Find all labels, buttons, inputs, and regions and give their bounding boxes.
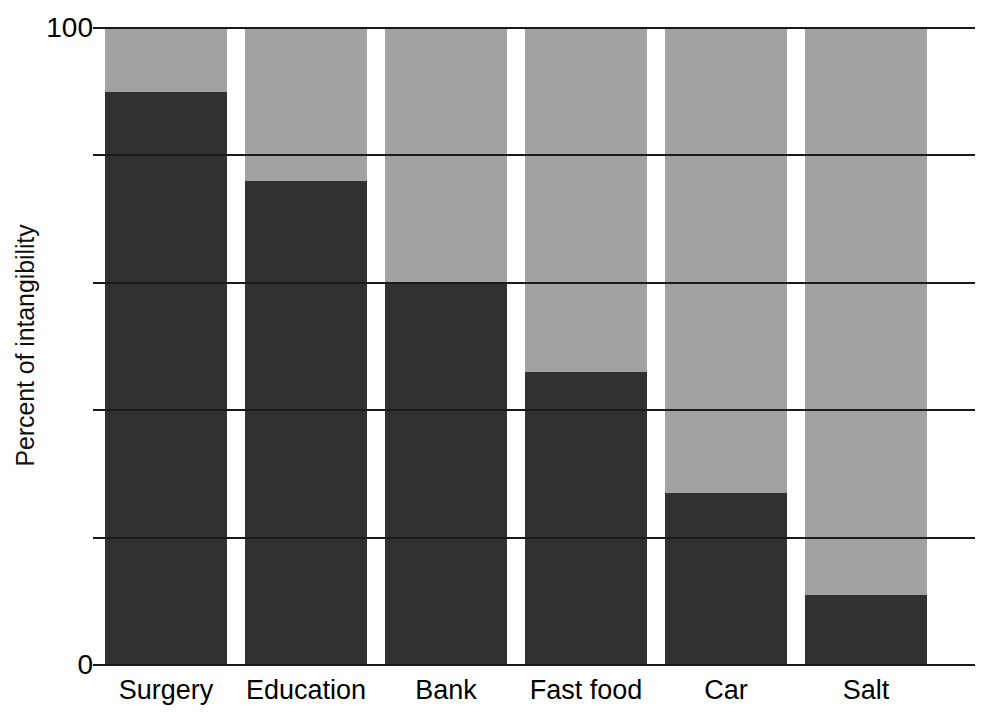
bar-surgery [105, 92, 227, 665]
y-tick-label-0: 0 [33, 651, 93, 679]
x-tick-label-salt: Salt [790, 676, 942, 704]
x-axis-tick-labels: SurgeryEducationBankFast foodCarSalt [105, 676, 945, 720]
y-tick-label-100: 100 [33, 14, 93, 42]
bar-column-car [665, 28, 787, 665]
x-tick-label-fast-food: Fast food [510, 676, 662, 704]
bar-column-surgery [105, 28, 227, 665]
bar-education [245, 181, 367, 665]
y-axis-tick-labels: 0100 [25, 0, 93, 726]
x-tick-label-car: Car [650, 676, 802, 704]
x-tick-label-surgery: Surgery [90, 676, 242, 704]
bar-column-education [245, 28, 367, 665]
bar-fast-food [525, 372, 647, 665]
bar-salt [805, 595, 927, 665]
plot-area [105, 28, 945, 665]
bar-column-salt [805, 28, 927, 665]
chart-figure: 0100 Percent of intangibility SurgeryEdu… [0, 0, 991, 726]
bar-car [665, 493, 787, 665]
bar-column-bank [385, 28, 507, 665]
bar-bank [385, 283, 507, 665]
x-tick-label-bank: Bank [370, 676, 522, 704]
bar-column-fast-food [525, 28, 647, 665]
x-tick-label-education: Education [230, 676, 382, 704]
